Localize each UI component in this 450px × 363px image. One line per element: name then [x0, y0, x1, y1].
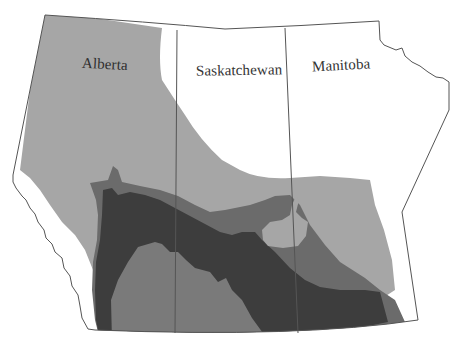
label-manitoba: Manitoba [312, 55, 371, 75]
prairie-provinces-map: Alberta Saskatchewan Manitoba [0, 0, 450, 363]
map-graphic [0, 0, 450, 363]
label-saskatchewan: Saskatchewan [196, 61, 282, 80]
label-alberta: Alberta [82, 55, 129, 74]
